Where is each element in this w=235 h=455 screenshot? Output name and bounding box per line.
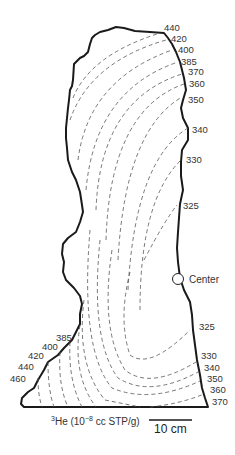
label-330-top: 330	[186, 154, 202, 165]
contour-370	[96, 74, 182, 210]
label-400-left: 400	[42, 341, 58, 352]
label-325-bottom: 325	[199, 321, 215, 332]
label-440-top: 440	[164, 22, 180, 33]
center-marker-icon	[173, 274, 184, 285]
label-370-top: 370	[188, 66, 204, 77]
scale-bar-label: 10 cm	[154, 422, 187, 436]
contour-325	[144, 205, 177, 260]
contour-420	[70, 40, 166, 120]
caption-isotope: He (10	[55, 416, 85, 427]
label-370-bottom: 370	[212, 396, 228, 407]
label-420-left: 420	[28, 350, 44, 361]
contour-330	[140, 160, 181, 310]
label-420-top: 420	[171, 33, 187, 44]
contour-diagram: 440 420 400 385 370 360 350 340 330 325 …	[0, 0, 235, 455]
caption-units: cc STP/g)	[93, 416, 140, 427]
label-330-bottom: 330	[201, 350, 217, 361]
label-385-left: 385	[56, 332, 72, 343]
contour-325-lower	[124, 272, 190, 359]
contour-360-lower	[82, 300, 140, 407]
contour-385	[86, 62, 178, 190]
contour-440	[73, 33, 160, 98]
caption: 3He (10−8 cc STP/g)	[51, 415, 140, 427]
label-340-top: 340	[192, 124, 208, 135]
label-460-left: 460	[10, 373, 26, 384]
label-440-left: 440	[18, 361, 34, 372]
contour-350	[118, 97, 182, 260]
contour-400-lower	[60, 352, 68, 407]
caption-exponent: −8	[85, 415, 93, 422]
contour-385-lower	[70, 342, 82, 407]
label-340-bottom: 340	[204, 362, 220, 373]
label-360-bottom: 360	[210, 384, 226, 395]
center-label: Center	[189, 274, 220, 285]
contour-340-lower	[97, 240, 198, 387]
contour-400	[78, 50, 172, 160]
label-350-top: 350	[188, 94, 204, 105]
label-325-top: 325	[183, 200, 199, 211]
contour-440-lower	[38, 378, 42, 407]
contour-360	[106, 84, 184, 240]
contour-420-lower	[48, 362, 54, 407]
label-360-top: 360	[189, 78, 205, 89]
label-400-top: 400	[178, 44, 194, 55]
contour-350-lower	[88, 230, 200, 395]
contour-330-lower	[108, 250, 196, 378]
contour-right-370	[150, 394, 204, 407]
label-350-bottom: 350	[207, 373, 223, 384]
